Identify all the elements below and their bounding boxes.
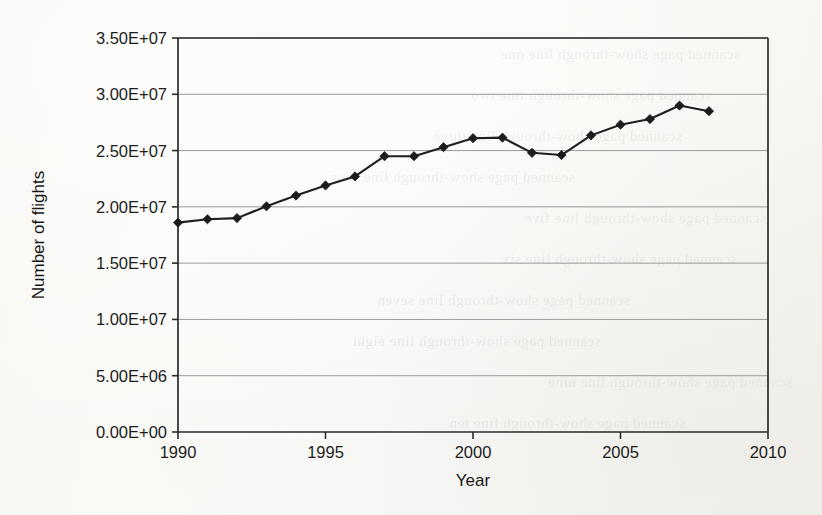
x-axis-title: Year	[456, 471, 491, 490]
x-tick-label: 2010	[750, 443, 787, 461]
x-tick-label: 2005	[602, 443, 639, 461]
y-tick-label: 2.00E+07	[96, 198, 167, 216]
y-tick-label: 3.00E+07	[96, 85, 167, 103]
series-line-flights	[178, 106, 709, 223]
chart-canvas: 0.00E+005.00E+061.00E+071.50E+072.00E+07…	[0, 0, 822, 515]
data-point-marker	[616, 120, 625, 129]
y-tick-label: 2.50E+07	[96, 142, 167, 160]
y-tick-label: 1.00E+07	[96, 310, 167, 328]
data-point-marker	[173, 218, 182, 227]
x-tick-label: 1990	[160, 443, 197, 461]
x-tick-label: 2000	[455, 443, 492, 461]
data-point-marker	[527, 148, 536, 157]
y-axis-title: Number of flights	[29, 171, 48, 300]
data-point-marker	[645, 114, 654, 123]
data-point-marker	[203, 215, 212, 224]
y-tick-label: 0.00E+00	[96, 423, 167, 441]
y-tick-label: 1.50E+07	[96, 254, 167, 272]
data-point-marker	[675, 101, 684, 110]
data-point-marker	[321, 181, 330, 190]
data-point-marker	[291, 191, 300, 200]
y-tick-label: 5.00E+06	[96, 367, 167, 385]
data-point-marker	[704, 107, 713, 116]
x-tick-label: 1995	[307, 443, 344, 461]
data-point-marker	[498, 133, 507, 142]
data-point-marker	[409, 152, 418, 161]
y-tick-label: 3.50E+07	[96, 29, 167, 47]
data-point-marker	[232, 214, 241, 223]
flights-line-chart: 0.00E+005.00E+061.00E+071.50E+072.00E+07…	[0, 0, 822, 515]
data-point-marker	[262, 202, 271, 211]
data-point-marker	[468, 134, 477, 143]
